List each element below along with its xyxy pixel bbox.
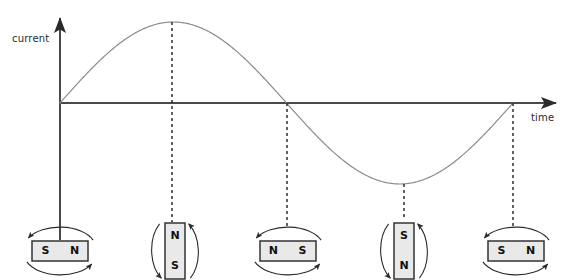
magnet-0deg-rotation-arrow-bottom	[27, 262, 92, 275]
magnet-90deg-body	[165, 223, 185, 279]
magnet-360deg-rotation-arrow-top	[484, 227, 549, 240]
magnet-180deg-rotation-arrow-bottom	[255, 262, 320, 275]
magnet-0deg-body	[32, 241, 88, 261]
magnet-180deg-rotation-arrow-top	[256, 227, 321, 240]
magnet-360deg	[483, 227, 549, 275]
diagram-canvas	[0, 0, 578, 280]
magnet-360deg-body	[488, 241, 544, 261]
magnet-270deg-rotation-arrow-right	[418, 224, 428, 278]
magnet-270deg-rotation-arrow-left	[381, 224, 391, 278]
magnet-90deg	[152, 223, 199, 279]
dashed-guide-lines	[172, 22, 513, 228]
magnet-180deg	[255, 227, 321, 275]
magnet-360deg-rotation-arrow-bottom	[483, 262, 548, 275]
magnet-group	[27, 223, 549, 279]
magnet-270deg	[381, 223, 428, 279]
magnet-90deg-rotation-arrow-left	[152, 224, 162, 278]
magnet-180deg-body	[260, 241, 316, 261]
magnet-270deg-body	[394, 223, 414, 279]
magnet-90deg-rotation-arrow-right	[189, 224, 199, 278]
figure-root: current time SNNSNSSNSN	[0, 0, 578, 280]
